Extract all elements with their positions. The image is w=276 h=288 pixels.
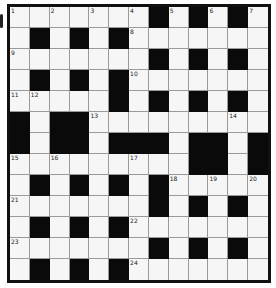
answer-cell[interactable]	[129, 91, 149, 112]
answer-cell[interactable]	[30, 112, 50, 133]
answer-cell[interactable]	[248, 28, 268, 49]
answer-cell[interactable]: 4	[129, 7, 149, 28]
answer-cell[interactable]	[89, 133, 109, 154]
answer-cell[interactable]	[228, 154, 248, 175]
answer-cell[interactable]	[89, 154, 109, 175]
answer-cell[interactable]	[228, 175, 248, 196]
answer-cell[interactable]	[208, 217, 228, 238]
answer-cell[interactable]	[30, 49, 50, 70]
answer-cell[interactable]: 11	[10, 91, 30, 112]
answer-cell[interactable]	[30, 133, 50, 154]
answer-cell[interactable]	[149, 70, 169, 91]
answer-cell[interactable]	[109, 7, 129, 28]
answer-cell[interactable]	[129, 196, 149, 217]
answer-cell[interactable]	[109, 238, 129, 259]
answer-cell[interactable]	[129, 49, 149, 70]
answer-cell[interactable]	[189, 175, 209, 196]
answer-cell[interactable]	[169, 112, 189, 133]
answer-cell[interactable]	[89, 91, 109, 112]
answer-cell[interactable]: 16	[50, 154, 70, 175]
answer-cell[interactable]: 24	[129, 259, 149, 280]
answer-cell[interactable]	[208, 238, 228, 259]
answer-cell[interactable]	[208, 28, 228, 49]
answer-cell[interactable]: 3	[89, 7, 109, 28]
answer-cell[interactable]	[10, 259, 30, 280]
answer-cell[interactable]	[228, 70, 248, 91]
answer-cell[interactable]: 7	[248, 7, 268, 28]
answer-cell[interactable]	[109, 196, 129, 217]
answer-cell[interactable]: 17	[129, 154, 149, 175]
answer-cell[interactable]	[89, 217, 109, 238]
answer-cell[interactable]	[208, 70, 228, 91]
answer-cell[interactable]	[89, 175, 109, 196]
answer-cell[interactable]	[169, 28, 189, 49]
answer-cell[interactable]: 1	[10, 7, 30, 28]
answer-cell[interactable]	[248, 259, 268, 280]
answer-cell[interactable]: 6	[208, 7, 228, 28]
answer-cell[interactable]: 13	[89, 112, 109, 133]
answer-cell[interactable]	[208, 91, 228, 112]
answer-cell[interactable]	[169, 70, 189, 91]
answer-cell[interactable]	[70, 91, 90, 112]
answer-cell[interactable]	[169, 154, 189, 175]
answer-cell[interactable]	[189, 259, 209, 280]
answer-cell[interactable]	[248, 238, 268, 259]
answer-cell[interactable]	[248, 49, 268, 70]
answer-cell[interactable]	[129, 175, 149, 196]
answer-cell[interactable]	[169, 259, 189, 280]
answer-cell[interactable]: 14	[228, 112, 248, 133]
answer-cell[interactable]: 23	[10, 238, 30, 259]
answer-cell[interactable]	[228, 259, 248, 280]
answer-cell[interactable]	[50, 91, 70, 112]
answer-cell[interactable]	[70, 154, 90, 175]
answer-cell[interactable]	[30, 196, 50, 217]
answer-cell[interactable]	[50, 238, 70, 259]
answer-cell[interactable]	[169, 49, 189, 70]
answer-cell[interactable]	[89, 259, 109, 280]
answer-cell[interactable]	[30, 238, 50, 259]
answer-cell[interactable]	[149, 259, 169, 280]
answer-cell[interactable]	[228, 133, 248, 154]
answer-cell[interactable]: 12	[30, 91, 50, 112]
answer-cell[interactable]	[149, 28, 169, 49]
answer-cell[interactable]	[149, 217, 169, 238]
answer-cell[interactable]	[248, 91, 268, 112]
answer-cell[interactable]	[10, 217, 30, 238]
answer-cell[interactable]	[169, 217, 189, 238]
answer-cell[interactable]	[248, 217, 268, 238]
answer-cell[interactable]	[10, 175, 30, 196]
answer-cell[interactable]	[50, 259, 70, 280]
answer-cell[interactable]	[149, 154, 169, 175]
answer-cell[interactable]: 18	[169, 175, 189, 196]
answer-cell[interactable]	[70, 7, 90, 28]
answer-cell[interactable]	[50, 175, 70, 196]
answer-cell[interactable]: 8	[129, 28, 149, 49]
answer-cell[interactable]	[89, 49, 109, 70]
answer-cell[interactable]	[248, 70, 268, 91]
answer-cell[interactable]	[248, 112, 268, 133]
answer-cell[interactable]	[30, 7, 50, 28]
answer-cell[interactable]: 22	[129, 217, 149, 238]
answer-cell[interactable]	[50, 217, 70, 238]
answer-cell[interactable]	[10, 28, 30, 49]
answer-cell[interactable]: 19	[208, 175, 228, 196]
answer-cell[interactable]	[109, 154, 129, 175]
answer-cell[interactable]	[10, 70, 30, 91]
answer-cell[interactable]	[189, 112, 209, 133]
answer-cell[interactable]	[129, 112, 149, 133]
answer-cell[interactable]	[129, 238, 149, 259]
answer-cell[interactable]	[50, 28, 70, 49]
answer-cell[interactable]: 15	[10, 154, 30, 175]
answer-cell[interactable]	[30, 154, 50, 175]
answer-cell[interactable]	[208, 112, 228, 133]
answer-cell[interactable]: 9	[10, 49, 30, 70]
answer-cell[interactable]	[228, 217, 248, 238]
answer-cell[interactable]	[109, 49, 129, 70]
answer-cell[interactable]: 20	[248, 175, 268, 196]
answer-cell[interactable]	[208, 49, 228, 70]
answer-cell[interactable]: 21	[10, 196, 30, 217]
answer-cell[interactable]	[208, 196, 228, 217]
answer-cell[interactable]	[70, 238, 90, 259]
answer-cell[interactable]	[149, 112, 169, 133]
answer-cell[interactable]	[89, 196, 109, 217]
